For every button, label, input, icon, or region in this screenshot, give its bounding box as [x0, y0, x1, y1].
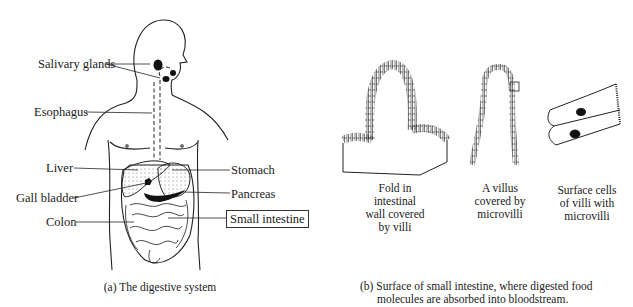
caption-b-line1: (b) Surface of small intestine, where di… — [360, 280, 630, 293]
esophagus-drawing — [154, 67, 172, 160]
panel-b2-line: covered by — [460, 195, 540, 208]
label-colon: Colon — [46, 215, 77, 229]
label-salivary-glands: Salivary glands — [38, 57, 115, 71]
intestinal-fold-drawing — [343, 65, 447, 175]
panel-b1-line: intestinal — [355, 195, 435, 208]
caption-a: (a) The digestive system — [60, 281, 260, 294]
intestines-drawing — [126, 200, 188, 263]
panel-b1-line: Fold in — [355, 182, 435, 195]
panel-b1-line: by villi — [355, 221, 435, 234]
label-liver: Liver — [46, 161, 73, 175]
villus-drawing — [472, 67, 519, 165]
panel-b3-caption: Surface cells of villi with microvilli — [545, 184, 629, 223]
panel-b3-line: of villi with — [545, 197, 629, 210]
panel-b3-line: Surface cells — [545, 184, 629, 197]
panel-b2-caption: A villus covered by microvilli — [460, 182, 540, 221]
panel-b2-line: microvilli — [460, 208, 540, 221]
panel-b2-line: A villus — [460, 182, 540, 195]
label-esophagus: Esophagus — [34, 105, 88, 119]
caption-b-line2: molecules are absorbed into bloodstream. — [360, 293, 630, 306]
panel-b3-line: microvilli — [545, 210, 629, 223]
label-gall-bladder: Gall bladder — [16, 191, 78, 205]
panel-b1-line: wall covered — [355, 208, 435, 221]
panel-b1-caption: Fold in intestinal wall covered by villi — [355, 182, 435, 234]
diagram-artwork — [0, 0, 633, 307]
label-stomach: Stomach — [231, 163, 275, 177]
surface-cells-drawing — [548, 84, 620, 145]
label-pancreas: Pancreas — [231, 187, 275, 201]
salivary-glands-drawing — [154, 60, 177, 83]
label-small-intestine: Small intestine — [226, 210, 309, 228]
caption-b: (b) Surface of small intestine, where di… — [360, 280, 630, 306]
